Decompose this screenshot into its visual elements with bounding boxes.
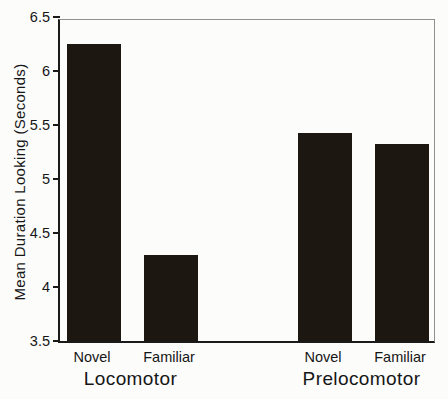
y-axis-tick	[53, 124, 60, 126]
category-label: Familiar	[374, 349, 426, 365]
category-label: Novel	[73, 349, 110, 365]
category-label: Novel	[304, 349, 341, 365]
y-axis-tick-label: 6	[42, 64, 50, 79]
bar-locomotor-novel	[67, 44, 121, 341]
bar-prelocomotor-novel	[298, 133, 352, 341]
y-axis-tick-label: 4.5	[30, 226, 50, 241]
y-axis-tick-label: 5.5	[30, 118, 50, 133]
y-axis-tick-label: 4	[42, 280, 50, 295]
y-axis-title: Mean Duration Looking (Seconds)	[11, 64, 28, 301]
group-label: Locomotor	[84, 368, 177, 390]
y-axis-tick	[53, 70, 60, 72]
y-axis-tick-label: 3.5	[30, 334, 50, 349]
category-label: Familiar	[143, 349, 195, 365]
y-axis-tick-label: 5	[42, 172, 50, 187]
y-axis-tick-label: 6.5	[30, 10, 50, 25]
group-label: Prelocomotor	[303, 368, 421, 390]
y-axis-tick	[53, 232, 60, 234]
bar-locomotor-familiar	[144, 255, 198, 341]
bar-chart-figure: Mean Duration Looking (Seconds) 3.544.55…	[0, 0, 448, 399]
bar-prelocomotor-familiar	[375, 144, 429, 341]
y-axis-tick	[53, 16, 60, 18]
y-axis-tick	[53, 340, 60, 342]
y-axis-tick	[53, 178, 60, 180]
plot-area: 3.544.555.566.5	[58, 19, 435, 343]
y-axis-tick	[53, 286, 60, 288]
